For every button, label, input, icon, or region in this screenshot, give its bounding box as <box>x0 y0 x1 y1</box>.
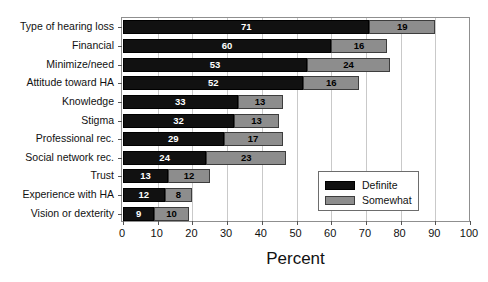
stacked-bar-chart: Type of hearing lossFinancialMinimize/ne… <box>0 0 488 282</box>
x-tick-label: 90 <box>428 226 440 240</box>
legend-item-definite: Definite <box>325 178 398 192</box>
x-tick-label: 100 <box>460 226 478 240</box>
bar-row: 2917 <box>122 132 471 146</box>
bar-value-label: 16 <box>303 76 359 90</box>
category-label: Knowledge <box>0 95 114 107</box>
category-label: Social network rec. <box>0 151 114 163</box>
category-label: Experience with HA <box>0 188 114 200</box>
bar-row: 6016 <box>122 39 471 53</box>
bar-value-label: 9 <box>123 207 154 221</box>
category-tick-mark <box>118 195 122 196</box>
bar-value-label: 53 <box>123 58 307 72</box>
x-tick-mark <box>227 221 228 225</box>
category-axis-labels: Type of hearing lossFinancialMinimize/ne… <box>0 17 114 222</box>
bar-value-label: 13 <box>234 114 279 128</box>
category-label: Vision or dexterity <box>0 207 114 219</box>
category-tick-mark <box>118 102 122 103</box>
chart-legend: Definite Somewhat <box>318 171 419 211</box>
x-tick-label: 50 <box>289 226 301 240</box>
x-tick-mark <box>192 221 193 225</box>
x-tick-mark <box>366 221 367 225</box>
category-label: Financial <box>0 39 114 51</box>
x-tick-label: 20 <box>185 226 197 240</box>
category-label: Minimize/need <box>0 58 114 70</box>
plot-area: 7119601653245216331332132917242313121289… <box>121 17 470 222</box>
bar-value-label: 12 <box>123 188 165 202</box>
bar-row: 2423 <box>122 151 471 165</box>
category-tick-mark <box>118 121 122 122</box>
x-tick-label: 30 <box>220 226 232 240</box>
legend-item-somewhat: Somewhat <box>325 193 412 207</box>
bar-row: 7119 <box>122 20 471 34</box>
x-tick-mark <box>297 221 298 225</box>
category-tick-mark <box>118 46 122 47</box>
bar-value-label: 52 <box>123 76 303 90</box>
x-tick-mark <box>331 221 332 225</box>
bar-value-label: 71 <box>123 20 369 34</box>
bar-value-label: 13 <box>123 169 168 183</box>
bar-value-label: 60 <box>123 39 331 53</box>
bar-value-label: 8 <box>165 188 193 202</box>
bar-row: 5324 <box>122 58 471 72</box>
x-tick-label: 60 <box>324 226 336 240</box>
bar-value-label: 17 <box>224 132 283 146</box>
bar-row: 3213 <box>122 114 471 128</box>
bar-value-label: 13 <box>238 95 283 109</box>
category-tick-mark <box>118 27 122 28</box>
category-tick-mark <box>118 83 122 84</box>
legend-label-somewhat: Somewhat <box>362 194 412 206</box>
category-tick-mark <box>118 65 122 66</box>
x-tick-label: 80 <box>393 226 405 240</box>
legend-swatch-definite-icon <box>325 181 355 190</box>
bar-value-label: 32 <box>123 114 234 128</box>
x-tick-label: 10 <box>151 226 163 240</box>
bar-row: 5216 <box>122 76 471 90</box>
category-label: Professional rec. <box>0 132 114 144</box>
x-tick-mark <box>401 221 402 225</box>
bar-value-label: 29 <box>123 132 224 146</box>
x-tick-mark <box>158 221 159 225</box>
category-tick-mark <box>118 139 122 140</box>
x-tick-mark <box>435 221 436 225</box>
x-tick-mark <box>123 221 124 225</box>
category-label: Stigma <box>0 114 114 126</box>
bar-value-label: 33 <box>123 95 238 109</box>
x-tick-label: 0 <box>119 226 125 240</box>
legend-swatch-somewhat-icon <box>325 196 355 205</box>
x-tick-mark <box>262 221 263 225</box>
bar-value-label: 24 <box>123 151 206 165</box>
x-axis-tick-labels: 0102030405060708090100 <box>121 226 470 242</box>
legend-label-definite: Definite <box>362 179 398 191</box>
bar-value-label: 16 <box>331 39 387 53</box>
category-tick-mark <box>118 176 122 177</box>
bar-value-label: 19 <box>369 20 435 34</box>
category-tick-mark <box>118 214 122 215</box>
category-tick-mark <box>118 158 122 159</box>
x-tick-mark <box>470 221 471 225</box>
x-axis-title: Percent <box>121 249 470 269</box>
bar-row: 3313 <box>122 95 471 109</box>
x-tick-label: 40 <box>255 226 267 240</box>
category-label: Trust <box>0 169 114 181</box>
bar-value-label: 12 <box>168 169 210 183</box>
bar-value-label: 23 <box>206 151 286 165</box>
bar-value-label: 24 <box>307 58 390 72</box>
bar-value-label: 10 <box>154 207 189 221</box>
x-tick-label: 70 <box>359 226 371 240</box>
category-label: Type of hearing loss <box>0 20 114 32</box>
category-label: Attitude toward HA <box>0 76 114 88</box>
